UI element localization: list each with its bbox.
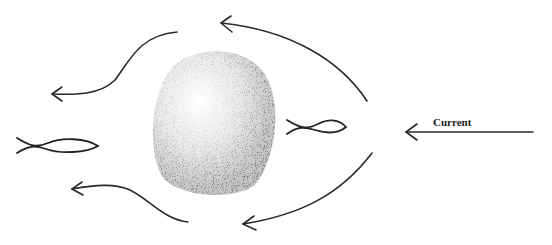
current-label: Current [433, 116, 471, 128]
fish-icon [17, 138, 98, 153]
flow-arrow-upper-left [52, 32, 177, 101]
rock [153, 51, 276, 195]
fish-icon [287, 120, 346, 134]
flow-arrow-lower-left [72, 182, 188, 222]
